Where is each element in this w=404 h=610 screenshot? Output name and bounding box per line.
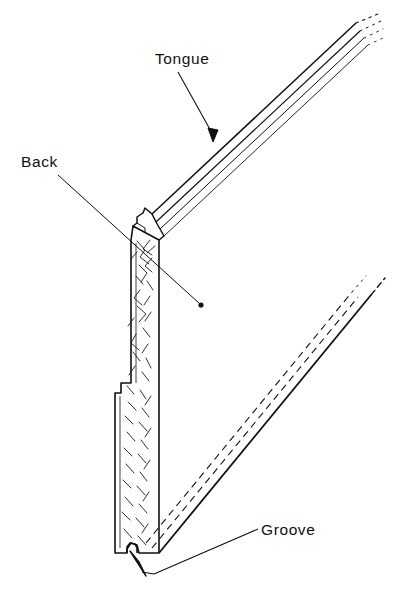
tongue-break-line-2: [360, 21, 381, 31]
board-illustration: [0, 0, 404, 610]
bottom-face-solid-edge: [159, 295, 371, 553]
groove-leader-arrowhead: [130, 551, 146, 576]
tongue-break-line-4: [368, 37, 385, 45]
tongue-break-line-1: [356, 14, 378, 23]
groove-hidden-line-2: [146, 292, 352, 543]
label-groove: Groove: [261, 522, 315, 538]
groove-hidden-line-1: [152, 297, 358, 548]
groove-hidden-line-fade: [352, 276, 366, 292]
tongue-assembly: [152, 14, 385, 236]
tongue-break-line-3: [364, 29, 383, 38]
technical-drawing-figure: Tongue Back Groove: [0, 0, 404, 610]
tongue-edge-line-4: [164, 45, 368, 236]
board-section-outline: [115, 226, 159, 553]
label-back: Back: [21, 154, 58, 170]
tongue-leader-line: [178, 72, 212, 133]
back-leader-line: [58, 175, 200, 304]
tongue-leader-arrowhead: [208, 128, 218, 142]
board-bottom-face: [146, 276, 385, 553]
label-tongue: Tongue: [155, 51, 209, 67]
board-end-grain-face: [115, 226, 159, 553]
back-leader-dot: [198, 302, 203, 307]
bottom-face-break-line: [371, 278, 385, 295]
